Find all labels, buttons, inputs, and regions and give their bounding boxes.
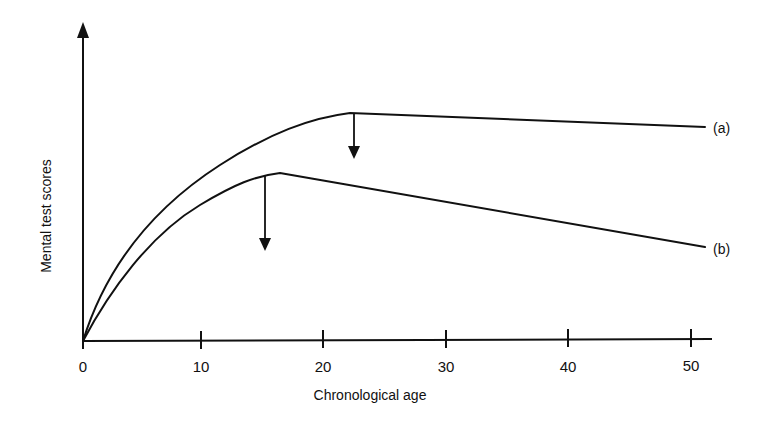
- series-a-curve: [83, 113, 705, 341]
- x-tick-label: 10: [193, 358, 210, 375]
- line-chart: 0 10 20 30 40 50 Chronological age Menta…: [0, 0, 772, 430]
- series-a-arrow: [348, 114, 360, 159]
- x-tick-label: 40: [560, 358, 577, 375]
- down-arrow-icon: [348, 146, 360, 159]
- x-tick-label: 0: [79, 358, 87, 375]
- x-axis: 0 10 20 30 40 50: [79, 329, 712, 375]
- x-axis-label: Chronological age: [314, 387, 427, 403]
- series-b-arrow: [259, 175, 271, 251]
- x-axis-line: [83, 339, 712, 341]
- series-b-label: (b): [713, 241, 730, 257]
- x-tick-label: 50: [683, 357, 700, 374]
- series-a-label: (a): [713, 120, 730, 136]
- y-axis-arrow-icon: [77, 22, 89, 38]
- x-tick-label: 20: [315, 358, 332, 375]
- x-tick-label: 30: [438, 358, 455, 375]
- y-axis-label: Mental test scores: [38, 159, 54, 273]
- y-axis: [77, 22, 89, 341]
- down-arrow-icon: [259, 238, 271, 251]
